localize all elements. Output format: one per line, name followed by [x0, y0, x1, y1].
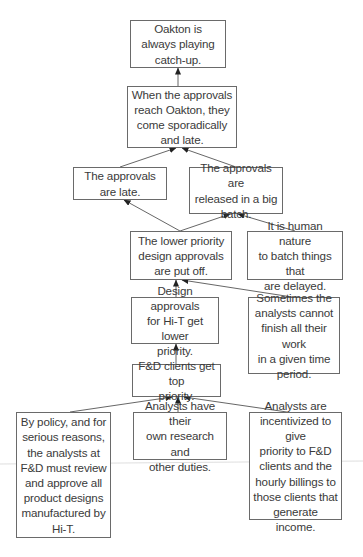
node-text: By policy, and for serious reasons, the … — [20, 414, 106, 536]
node-lower-priority-put-off: The lower priority design approvals are … — [130, 231, 232, 280]
node-oakton-catch-up: Oakton is always playing catch-up. — [130, 20, 226, 68]
node-text: Analysts are incentivized to give priori… — [253, 398, 338, 535]
edge-arrow-n5-to-n3 — [124, 200, 180, 231]
node-analysts-cannot-finish: Sometimes the analysts cannot finish all… — [248, 297, 340, 374]
node-incentivized-billings: Analysts are incentivized to give priori… — [249, 412, 342, 520]
node-research-other-duties: Analysts have their own research and oth… — [133, 412, 227, 460]
edge-arrow-n3-to-n2 — [120, 148, 176, 167]
node-text: Analysts have their own research and oth… — [137, 398, 223, 474]
node-text: Sometimes the analysts cannot finish all… — [252, 290, 336, 381]
node-text: Oakton is always playing catch-up. — [141, 21, 214, 67]
node-policy-review-approve: By policy, and for serious reasons, the … — [16, 412, 111, 538]
node-text: It is human nature to batch things that … — [251, 218, 339, 294]
node-text: The approvals are late. — [84, 168, 156, 198]
node-text: Design approvals for Hi-T get lower prio… — [135, 283, 215, 359]
node-text: When the approvals reach Oakton, they co… — [132, 87, 232, 148]
node-text: The approvals are released in a big batc… — [193, 160, 279, 221]
node-approvals-late: The approvals are late. — [73, 167, 167, 200]
node-approvals-sporadic-late: When the approvals reach Oakton, they co… — [127, 86, 237, 148]
node-text: F&D clients get top priority. — [136, 358, 217, 404]
node-hit-lower-priority: Design approvals for Hi-T get lower prio… — [131, 297, 219, 344]
node-fd-clients-top-priority: F&D clients get top priority. — [132, 364, 221, 397]
node-human-nature-batch: It is human nature to batch things that … — [247, 231, 343, 280]
diagram-canvas: Oakton is always playing catch-up. When … — [0, 0, 363, 557]
node-approvals-big-batch: The approvals are released in a big batc… — [189, 167, 283, 214]
node-text: The lower priority design approvals are … — [138, 233, 224, 279]
